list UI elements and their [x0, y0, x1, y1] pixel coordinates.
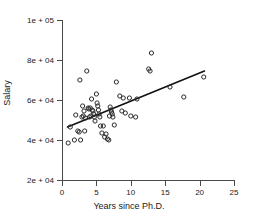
data-point — [101, 124, 105, 128]
data-point — [123, 111, 127, 115]
x-axis-title: Years since Ph.D. — [0, 201, 258, 211]
data-point — [112, 123, 116, 127]
data-point — [127, 96, 131, 100]
data-point — [168, 85, 172, 89]
data-point — [149, 51, 153, 55]
data-point — [202, 75, 206, 79]
scatter-plot-figure: 2e + 044e + 046e + 048e + 041e + 05 0510… — [0, 0, 258, 223]
data-point — [100, 131, 104, 135]
data-point — [129, 114, 133, 118]
data-point — [78, 138, 82, 142]
y-axis-title: Salary — [2, 63, 12, 123]
data-point — [89, 97, 93, 101]
data-point — [83, 129, 87, 133]
data-point — [78, 78, 82, 82]
data-point — [68, 125, 72, 129]
data-point — [114, 80, 118, 84]
data-point — [82, 109, 86, 113]
data-point — [85, 69, 89, 73]
data-point — [96, 108, 100, 112]
data-point — [135, 97, 139, 101]
data-point — [72, 138, 76, 142]
data-points-layer — [0, 0, 258, 223]
data-point — [81, 104, 85, 108]
data-point — [182, 95, 186, 99]
data-point — [134, 115, 138, 119]
data-point — [94, 92, 98, 96]
data-point — [66, 141, 70, 145]
data-point — [121, 96, 125, 100]
data-point — [74, 113, 78, 117]
data-point — [93, 119, 97, 123]
